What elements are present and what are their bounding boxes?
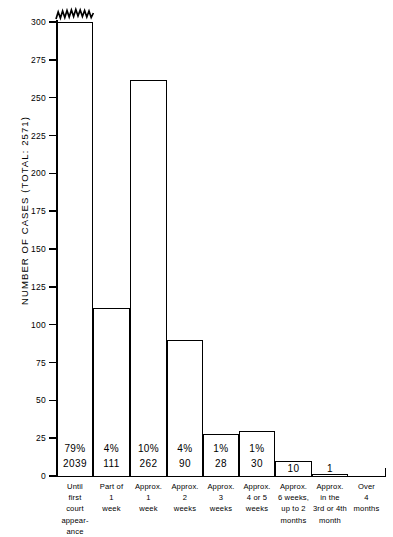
bar-chart: NUMBER OF CASES (TOTAL: 2571) 3002752502… [0,0,393,537]
bar-value-cell: 10 [275,437,312,478]
bar-count-label: 10 [288,462,300,477]
bar-count-label: 90 [179,457,191,472]
bar-value-cell [348,437,385,478]
bar-percent-label: 1% [213,442,228,457]
bar-value-cell: 1 [312,437,348,478]
bar-value-cell: 4%90 [167,437,203,476]
category-label-line: months [345,503,388,514]
bar-percent-label: 4% [104,442,119,457]
x-axis-category-label: Over4months [345,481,388,515]
bar [57,22,93,476]
bar-percent-label: 1% [249,442,264,457]
bar-value-cell: 1%28 [203,437,239,476]
category-label-line: month [309,515,351,526]
bar-value-cell: 10%262 [130,437,167,476]
bar-count-label: 1 [327,462,333,477]
bar-value-cell: 1%30 [239,437,275,476]
category-label-line: ance [54,526,96,537]
bar-count-label: 262 [140,457,158,472]
bar-percent-label: 10% [138,442,159,457]
bar-count-label: 2039 [63,457,87,472]
bar-value-cell: 79%2039 [57,437,93,476]
bar-count-label: 28 [215,457,227,472]
category-label-line: 4 [345,492,388,503]
bar-percent-label: 4% [177,442,192,457]
bar-count-label: 30 [251,457,263,472]
category-label-line: appear- [54,515,96,526]
bar [130,80,167,476]
bar-count-label: 111 [103,457,119,472]
axis-break-zigzag-icon [55,6,95,26]
category-label-line: Over [345,481,388,492]
bar-value-cell: 4%111 [93,437,130,476]
bar-percent-label: 79% [64,442,85,457]
